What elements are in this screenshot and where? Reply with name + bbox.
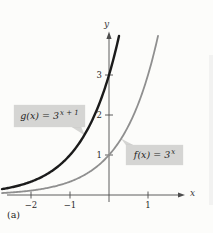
g-callout-tail [70,126,85,136]
f-function-name: f(x) [134,149,150,160]
f-function-base: 3 [164,149,170,160]
x-tick-label: 1 [145,200,150,210]
exponential-functions-figure: −2−11123 g(x)=3x + 1 f(x)=3x x y (a) [0,0,213,233]
y-axis-label: y [104,19,109,29]
equals-sign: = [153,149,161,160]
g-function-callout: g(x)=3x + 1 [14,105,85,127]
f-function-callout: f(x)=3x [126,145,183,165]
x-axis-arrow [178,192,185,197]
y-tick-label: 3 [97,70,102,80]
g-function-name: g(x) [20,110,39,121]
equals-sign: = [42,110,50,121]
x-tick-label: −2 [25,200,38,210]
x-tick-label: −1 [64,200,77,210]
f-function-exponent: x [171,148,175,156]
g-function-base: 3 [53,110,59,121]
x-axis-label: x [190,188,195,198]
subfigure-label: (a) [7,209,20,220]
y-axis-arrow [106,32,111,40]
g-function-exponent: x + 1 [60,109,79,117]
y-tick-label: 1 [97,150,102,160]
page-edge-scan-shade [209,55,213,205]
